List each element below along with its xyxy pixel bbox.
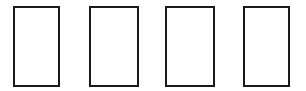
rectangle-2	[89, 6, 139, 87]
rectangle-3	[165, 6, 215, 87]
rectangle-1	[13, 6, 60, 87]
rectangle-4	[243, 6, 290, 87]
